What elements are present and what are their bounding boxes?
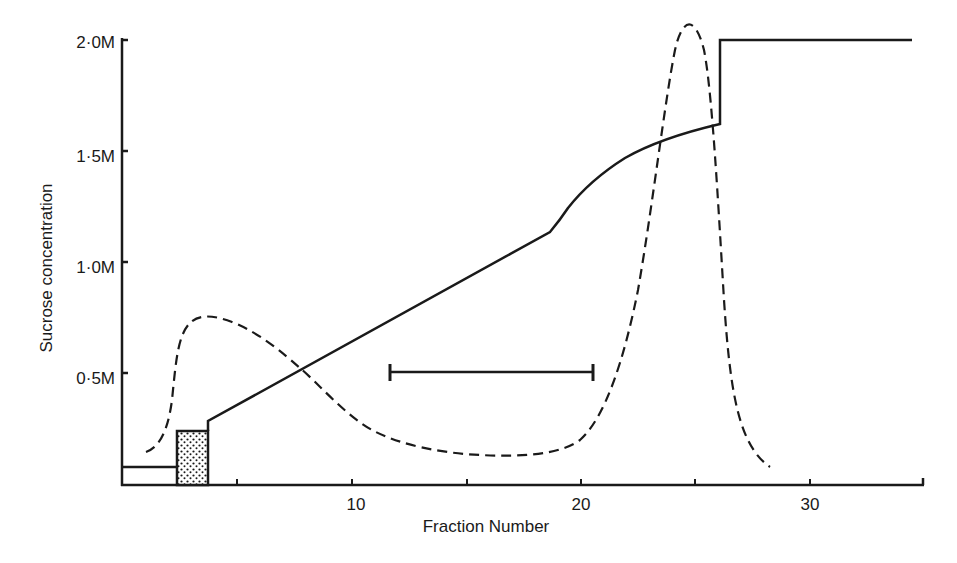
x-tick-label-30: 30 [801, 495, 820, 514]
sucrose-gradient-line [122, 40, 912, 467]
y-tick-label-0.5: 0·5M [76, 369, 115, 388]
sample-load-box [177, 431, 208, 485]
axes [121, 38, 924, 486]
y-tick-label-1.5: 1·5M [76, 147, 115, 166]
chart: 2·0M 1·5M 1·0M 0·5M 10 20 30 Fraction Nu… [0, 0, 957, 563]
y-tick-label-1.0: 1·0M [76, 258, 115, 277]
x-ticks: 10 20 30 [237, 478, 923, 514]
x-tick-label-10: 10 [347, 495, 366, 514]
pooled-fractions-bar [390, 364, 593, 381]
y-axis-title: Sucrose concentration [37, 183, 56, 352]
y-tick-label-2.0: 2·0M [76, 33, 115, 52]
absorbance-profile-line [146, 24, 770, 467]
x-tick-label-20: 20 [572, 495, 591, 514]
y-ticks: 2·0M 1·5M 1·0M 0·5M [76, 33, 128, 388]
x-axis-title: Fraction Number [423, 517, 550, 536]
